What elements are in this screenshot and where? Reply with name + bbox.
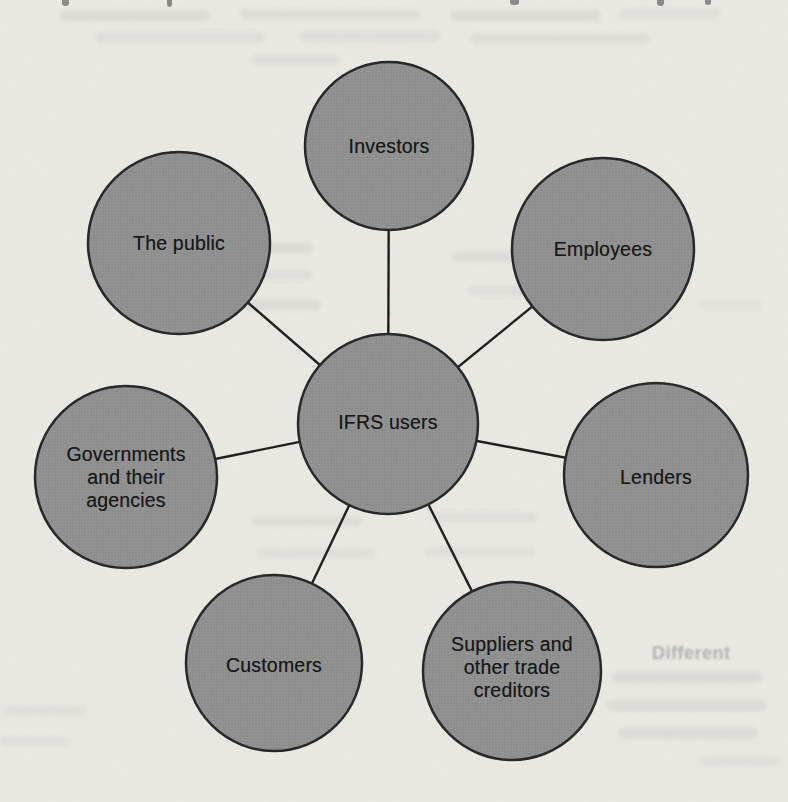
ifrs-users-diagram (0, 0, 788, 802)
node-circle-customers (186, 575, 362, 751)
node-circle-suppliers (423, 582, 601, 760)
node-circle-lenders (564, 383, 748, 567)
node-circle-employees (512, 158, 694, 340)
node-circle-governments (35, 386, 217, 568)
node-circle-investors (305, 62, 473, 230)
node-circle-ifrs-users (298, 334, 478, 514)
scanned-page: Different (0, 0, 788, 802)
node-circle-the-public (88, 152, 270, 334)
node-circles (35, 62, 748, 760)
